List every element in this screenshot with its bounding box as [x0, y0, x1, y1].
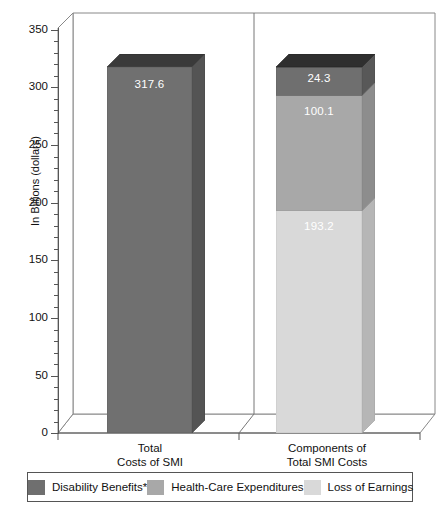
bar-components-of-total-smi-costs[interactable]: 24.3 100.1 193.2: [276, 54, 362, 433]
legend-swatch-disability-benefits: [28, 480, 45, 495]
y-axis-label-300: 300: [0, 81, 48, 93]
bar-2-value-label-disability-benefits: 24.3: [276, 72, 362, 84]
y-tick-minor-60: [54, 364, 59, 365]
y-tick-minor-240: [54, 157, 59, 158]
y-axis-line: [58, 28, 59, 434]
legend-swatch-health-care-expenditures: [147, 480, 164, 495]
chart-container: In Billions (dollars): [0, 0, 442, 516]
y-axis-label-350: 350: [0, 24, 48, 36]
y-tick-minor-170: [54, 237, 59, 238]
y-tick-minor-290: [54, 99, 59, 100]
bar-2-value-label-loss-of-earnings: 193.2: [276, 220, 362, 232]
y-tick-minor-210: [54, 191, 59, 192]
y-axis-label-150: 150: [0, 254, 48, 266]
y-tick-minor-320: [54, 64, 59, 65]
y-tick-250: [51, 145, 59, 146]
bar-2-seg-loss-of-earnings-front: [276, 211, 362, 433]
y-axis-label-0: 0: [0, 427, 48, 439]
y-axis-label-200: 200: [0, 197, 48, 209]
y-tick-minor-90: [54, 330, 59, 331]
x-axis-category-1-label-line1: Total: [90, 441, 210, 455]
legend-item-disability-benefits[interactable]: Disability Benefits*: [28, 480, 147, 495]
y-tick-minor-260: [54, 133, 59, 134]
y-tick-0: [51, 433, 59, 434]
y-tick-minor-230: [54, 168, 59, 169]
bar-1-top-cap: [107, 54, 205, 67]
y-tick-minor-120: [54, 295, 59, 296]
legend-label-loss-of-earnings: Loss of Earnings: [328, 481, 414, 493]
y-tick-minor-160: [54, 249, 59, 250]
legend: Disability Benefits* Health-Care Expendi…: [27, 472, 413, 502]
y-tick-minor-190: [54, 214, 59, 215]
y-tick-minor-340: [54, 41, 59, 42]
x-axis-category-1-label-line2: Costs of SMI: [90, 455, 210, 469]
plot-left-wall: [58, 13, 73, 433]
x-axis-category-2: Components of Total SMI Costs: [262, 441, 392, 469]
bar-2-value-label-health-care: 100.1: [276, 105, 362, 117]
y-tick-minor-220: [54, 180, 59, 181]
y-tick-minor-270: [54, 122, 59, 123]
category-divider-floor: [239, 414, 254, 433]
bar-2-seg-health-care-side: [362, 82, 375, 210]
plot-3d-frame: [0, 0, 442, 516]
y-axis-label-100: 100: [0, 312, 48, 324]
y-tick-minor-40: [54, 387, 59, 388]
bar-total-costs-of-smi[interactable]: 317.6: [107, 54, 192, 433]
x-axis-category-2-label-line1: Components of: [262, 441, 392, 455]
bar-1-3d-shape[interactable]: [107, 54, 205, 433]
x-axis-category-2-label-line2: Total SMI Costs: [262, 455, 392, 469]
y-tick-minor-110: [54, 307, 59, 308]
y-tick-350: [51, 30, 59, 31]
y-tick-300: [51, 87, 59, 88]
y-tick-minor-330: [54, 53, 59, 54]
y-tick-minor-130: [54, 284, 59, 285]
legend-swatch-loss-of-earnings: [304, 480, 321, 495]
y-axis-label-250: 250: [0, 139, 48, 151]
legend-label-health-care-expenditures: Health-Care Expenditures: [171, 481, 303, 493]
y-axis-label-50: 50: [0, 370, 48, 382]
y-tick-minor-180: [54, 226, 59, 227]
legend-label-disability-benefits: Disability Benefits*: [52, 481, 147, 493]
y-tick-minor-70: [54, 353, 59, 354]
y-tick-minor-20: [54, 410, 59, 411]
y-tick-minor-30: [54, 399, 59, 400]
bar-1-side-face: [192, 54, 205, 433]
y-tick-100: [51, 318, 59, 319]
bar-1-front-face: [107, 67, 192, 433]
y-tick-minor-10: [54, 422, 59, 423]
y-tick-minor-280: [54, 110, 59, 111]
x-axis-category-1: Total Costs of SMI: [90, 441, 210, 469]
bar-1-value-label: 317.6: [107, 78, 192, 90]
y-tick-minor-80: [54, 341, 59, 342]
legend-item-health-care-expenditures[interactable]: Health-Care Expenditures: [147, 480, 303, 495]
y-tick-50: [51, 376, 59, 377]
y-tick-minor-140: [54, 272, 59, 273]
legend-item-loss-of-earnings[interactable]: Loss of Earnings: [304, 480, 414, 495]
y-tick-minor-310: [54, 76, 59, 77]
bar-2-top-cap: [276, 54, 375, 67]
y-tick-150: [51, 260, 59, 261]
y-tick-200: [51, 203, 59, 204]
bar-2-seg-loss-of-earnings-side: [362, 198, 375, 433]
